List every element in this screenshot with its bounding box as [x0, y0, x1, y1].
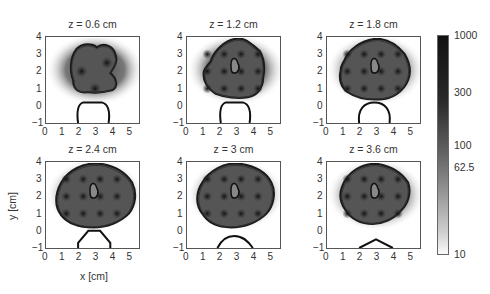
x-tick: 1 — [340, 252, 346, 262]
y-tick: 0 — [317, 101, 323, 111]
y-tick: 2 — [317, 66, 323, 76]
y-tick: 3 — [36, 49, 42, 59]
x-tick: 3 — [234, 252, 240, 262]
x-tick: 0 — [323, 252, 329, 262]
y-tick: 2 — [317, 191, 323, 201]
x-tick: 1 — [200, 252, 206, 262]
x-tick: 5 — [408, 127, 414, 137]
y-tick: 4 — [177, 32, 183, 42]
x-tick: 4 — [391, 127, 397, 137]
y-tick: 4 — [36, 32, 42, 42]
y-tick: 2 — [36, 66, 42, 76]
y-tick: 1 — [317, 209, 323, 219]
colorbar-tick: 10 — [454, 249, 466, 260]
x-tick: 3 — [374, 127, 380, 137]
x-tick: 0 — [183, 252, 189, 262]
heatmap-plot — [326, 36, 421, 124]
heatmap-plot — [186, 161, 281, 249]
y-tick: 1 — [36, 84, 42, 94]
x-tick: 2 — [76, 252, 82, 262]
y-tick: 0 — [177, 101, 183, 111]
panel-title: z = 1.8 cm — [304, 18, 444, 30]
heatmap-plot — [186, 36, 281, 124]
x-tick: 2 — [357, 127, 363, 137]
y-tick: 2 — [36, 191, 42, 201]
panel-title: z = 3 cm — [164, 143, 304, 155]
y-axis-label: y [cm] — [6, 192, 18, 220]
y-tick: 3 — [177, 49, 183, 59]
panel-title: z = 3.6 cm — [304, 143, 444, 155]
x-tick: 5 — [268, 127, 274, 137]
heatmap-plot — [45, 36, 140, 124]
y-tick: 1 — [317, 84, 323, 94]
x-tick: 4 — [110, 127, 116, 137]
y-tick: 1 — [36, 209, 42, 219]
colorbar — [437, 35, 449, 255]
x-axis-label: x [cm] — [80, 270, 108, 282]
x-tick: 3 — [374, 252, 380, 262]
colorbar-tick: 1000 — [454, 30, 477, 41]
x-tick: 5 — [127, 252, 133, 262]
colorbar-tick: 100 — [454, 140, 472, 151]
x-tick: 1 — [340, 127, 346, 137]
colorbar-tick: 300 — [454, 87, 472, 98]
x-tick: 1 — [59, 252, 65, 262]
x-tick: 5 — [408, 252, 414, 262]
x-tick: 1 — [59, 127, 65, 137]
y-tick: 0 — [177, 226, 183, 236]
panel-title: z = 1.2 cm — [164, 18, 304, 30]
y-tick: 1 — [177, 209, 183, 219]
y-tick: 4 — [317, 32, 323, 42]
x-tick: 5 — [127, 127, 133, 137]
y-tick: 0 — [36, 101, 42, 111]
y-tick: 0 — [36, 226, 42, 236]
y-tick: 2 — [177, 191, 183, 201]
x-tick: 2 — [217, 127, 223, 137]
panel-title: z = 0.6 cm — [23, 18, 163, 30]
y-tick: 2 — [177, 66, 183, 76]
x-tick: 0 — [183, 127, 189, 137]
y-tick: 1 — [177, 84, 183, 94]
x-tick: 4 — [251, 127, 257, 137]
x-tick: 4 — [110, 252, 116, 262]
x-tick: 0 — [42, 252, 48, 262]
x-tick: 1 — [200, 127, 206, 137]
panel-title: z = 2.4 cm — [23, 143, 163, 155]
x-tick: 4 — [251, 252, 257, 262]
heatmap-plot — [45, 161, 140, 249]
y-tick: 4 — [36, 157, 42, 167]
y-tick: 3 — [317, 49, 323, 59]
x-tick: 2 — [217, 252, 223, 262]
x-tick: 0 — [42, 127, 48, 137]
x-tick: 2 — [76, 127, 82, 137]
x-tick: 2 — [357, 252, 363, 262]
y-tick: 3 — [177, 174, 183, 184]
colorbar-tick: 62.5 — [454, 162, 474, 173]
y-tick: 3 — [36, 174, 42, 184]
y-tick: 3 — [317, 174, 323, 184]
y-tick: 4 — [177, 157, 183, 167]
x-tick: 4 — [391, 252, 397, 262]
x-tick: 0 — [323, 127, 329, 137]
x-tick: 3 — [93, 252, 99, 262]
x-tick: 3 — [93, 127, 99, 137]
x-tick: 3 — [234, 127, 240, 137]
heatmap-plot — [326, 161, 421, 249]
y-tick: 4 — [317, 157, 323, 167]
x-tick: 5 — [268, 252, 274, 262]
y-tick: 0 — [317, 226, 323, 236]
